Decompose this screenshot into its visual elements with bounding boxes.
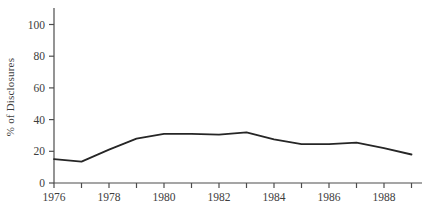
chart-canvas: 020406080100 197619781980198219841986198… [0, 0, 439, 214]
x-tick-label: 1988 [373, 191, 396, 203]
y-tick-label: 60 [34, 82, 46, 94]
x-tick-label: 1984 [263, 191, 286, 203]
data-line [54, 132, 412, 161]
y-tick-label: 80 [34, 50, 46, 62]
y-axis-label: % of Disclosures [4, 58, 16, 136]
line-chart: 020406080100 197619781980198219841986198… [0, 0, 439, 214]
y-tick-label: 100 [28, 19, 46, 31]
y-tick-label: 20 [34, 145, 46, 157]
y-tick-label: 0 [39, 177, 45, 189]
x-axis-ticks: 1976197819801982198419861988 [43, 183, 412, 203]
x-tick-label: 1978 [98, 191, 121, 203]
x-tick-label: 1980 [153, 191, 176, 203]
axis-lines [54, 8, 422, 183]
axes [54, 8, 422, 183]
x-tick-label: 1976 [43, 191, 66, 203]
x-tick-label: 1982 [208, 191, 231, 203]
y-axis-ticks: 020406080100 [28, 19, 54, 190]
x-tick-label: 1986 [318, 191, 341, 203]
y-tick-label: 40 [34, 114, 46, 126]
